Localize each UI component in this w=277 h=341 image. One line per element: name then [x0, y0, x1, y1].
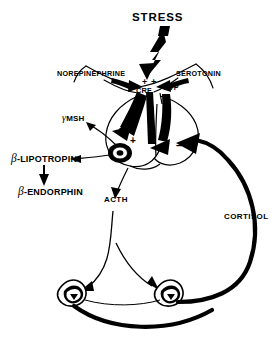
avp-label: AVP: [164, 84, 179, 91]
gamma-msh-arrowhead: [86, 122, 96, 131]
plus-sign-crf-median-eminence: +: [142, 78, 147, 87]
stress-label: STRESS: [132, 12, 183, 24]
plus-sign-corticotroph-lower: +: [130, 136, 136, 146]
adrenal-link-line: [85, 300, 160, 305]
beta-endorphin-text: -ENDORPHIN: [24, 187, 83, 197]
plus-sign-avp-median-eminence: +: [151, 78, 156, 87]
norepinephrine-label: NOREPINEPHRINE: [57, 70, 125, 77]
gamma-msh-text: MSH: [66, 114, 84, 123]
plus-sign-corticotroph-upper: +: [119, 124, 125, 134]
lightning-bolt-icon: [139, 26, 170, 80]
acth-arrow-upper: [117, 168, 128, 192]
beta-endorphin-arrow: [39, 165, 49, 186]
acth-arrow-to-adrenal: [88, 211, 113, 287]
crf-label: CRF: [136, 87, 152, 94]
minus-sign-cortisol-feedback: –: [176, 139, 183, 151]
beta-lipotropin-text: -LIPOTROPIN: [17, 154, 77, 164]
acth-arrow-right-branch: [116, 243, 152, 286]
acth-label: ACTH: [104, 196, 128, 204]
gamma-msh-label: γMSH: [62, 113, 85, 123]
beta-endorphin-label: β-ENDORPHIN: [18, 186, 83, 198]
cortisol-label: CORTISOL: [224, 213, 269, 221]
serotonin-label: SEROTONIN: [176, 70, 221, 77]
adrenal-gland-left-icon: [58, 280, 87, 306]
beta-lipotropin-label: β-LIPOTROPIN: [11, 153, 77, 165]
diagram-canvas: [0, 0, 277, 341]
corticotroph-cell-icon: [108, 143, 132, 163]
hpa-axis-figure: STRESS NOREPINEPHRINE SEROTONIN CRF AVP …: [0, 0, 277, 341]
